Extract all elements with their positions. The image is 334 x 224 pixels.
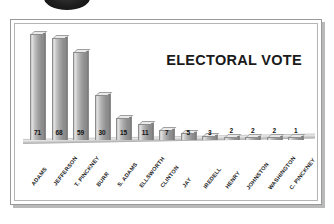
bar-washington[interactable]: 2 [267,137,280,140]
bar-value-label: 11 [139,130,152,137]
category-axis-labels: ADAMSJEFFERSONT. PINCKNEYBURRS. ADAMSELL… [29,142,309,200]
chart-card: ELECTORAL VOTE 7168593015117532221 ADAMS… [10,19,322,205]
chart-page: ELECTORAL VOTE 7168593015117532221 ADAMS… [0,0,334,224]
bar-value-label: 5 [182,130,195,137]
bar-slot: 1 [287,28,309,140]
bar-side-face [43,33,46,140]
bar-side-face [258,136,261,140]
bar-slot: 3 [201,28,223,140]
bar-front-face [202,136,215,140]
category-label-iredell: IREDELL [202,166,222,190]
bar-side-face [129,117,132,140]
bar-front-face [245,137,258,140]
category-label-s-adams: S. ADAMS [116,162,138,188]
bar-value-label: 68 [53,130,66,137]
bar-front-face [224,137,237,140]
bar-front-face [73,52,86,140]
bar-clinton[interactable]: 7 [159,130,172,140]
bar-slot: 68 [51,28,73,140]
bar-adams[interactable]: 71 [30,34,43,140]
bar-slot: 15 [115,28,137,140]
bar-jay[interactable]: 5 [181,133,194,140]
category-label-burr: BURR [95,171,110,188]
bar-value-label: 3 [203,130,216,137]
bar-henry[interactable]: 2 [224,137,237,140]
bar-front-face [30,34,43,140]
bar-front-face [52,38,65,140]
bar-side-face [86,51,89,140]
bar-value-label: 2 [268,128,281,135]
bar-ellsworth[interactable]: 11 [138,124,151,140]
bar-front-face [288,137,301,140]
chart-inner-frame: ELECTORAL VOTE 7168593015117532221 ADAMS… [14,23,318,201]
bar-value-label: 7 [160,130,173,137]
bar-side-face [280,136,283,140]
bar-slot: 5 [180,28,202,140]
bar-slot: 2 [244,28,266,140]
bar-value-label: 2 [225,128,238,135]
category-label-adams: ADAMS [30,166,48,187]
bar-front-face [267,137,280,140]
bar-slot: 2 [266,28,288,140]
bar-c-pinckney[interactable]: 1 [288,137,301,140]
bar-value-label: 30 [96,130,109,137]
bar-value-label: 2 [246,128,259,135]
bar-iredell[interactable]: 3 [202,136,215,140]
dark-oval-graphic [44,0,90,10]
plot-area: ELECTORAL VOTE 7168593015117532221 ADAMS… [15,24,317,200]
bar-value-label: 71 [31,130,44,137]
bar-johnston[interactable]: 2 [245,137,258,140]
bar-value-label: 59 [74,130,87,137]
bar-slot: 7 [158,28,180,140]
bar-slot: 2 [223,28,245,140]
category-label-clinton: CLINTON [159,164,180,188]
bar-value-label: 15 [117,130,130,137]
bar-slot: 71 [29,28,51,140]
category-label-jay: JAY [181,177,192,189]
bar-side-face [237,136,240,140]
bar-slot: 30 [94,28,116,140]
bar-s-adams[interactable]: 15 [116,118,129,140]
category-label-henry: HENRY [224,170,241,190]
bar-t-pinckney[interactable]: 59 [73,52,86,140]
bar-series: 7168593015117532221 [29,28,309,140]
bar-side-face [301,136,304,140]
bar-jefferson[interactable]: 68 [52,38,65,140]
category-label-slot: C. PINCKNEY [288,178,318,196]
bar-slot: 11 [137,28,159,140]
bar-slot: 59 [72,28,94,140]
bar-burr[interactable]: 30 [95,95,108,140]
bar-value-label: 1 [289,128,302,135]
bar-side-face [65,37,68,140]
